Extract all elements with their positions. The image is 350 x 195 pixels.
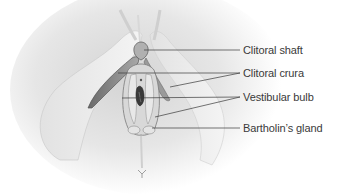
label-bartholins-gland: Bartholin’s gland [243, 122, 322, 134]
label-clitoral-shaft: Clitoral shaft [243, 44, 303, 56]
bartholin-gland-left [128, 126, 140, 134]
perineal-raphe [141, 136, 142, 168]
label-vestibular-bulb: Vestibular bulb [243, 91, 314, 103]
label-clitoral-crura: Clitoral crura [243, 67, 304, 79]
bartholin-gland-right [143, 126, 155, 134]
